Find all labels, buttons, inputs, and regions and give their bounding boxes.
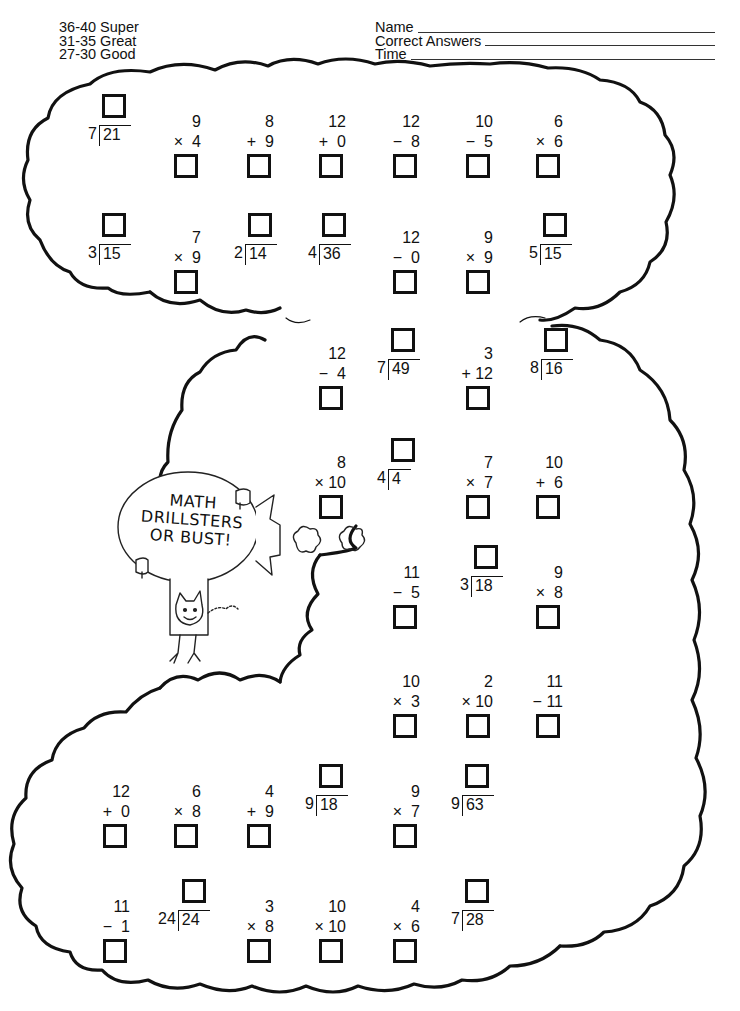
operator-and-bottom-operand: × 9 <box>447 248 507 268</box>
answer-box[interactable] <box>247 154 271 178</box>
answer-box[interactable] <box>248 213 272 237</box>
divisor: 3 <box>460 575 471 595</box>
problem-27-vertical: 2× 10 <box>447 672 507 738</box>
operator-and-bottom-operand: + 6 <box>517 473 577 493</box>
problem-40-division: 728 <box>451 879 494 931</box>
time-field[interactable]: Time <box>375 48 715 62</box>
correct-answers-input-line[interactable] <box>485 44 715 46</box>
operator-and-bottom-operand: − 4 <box>300 364 360 384</box>
answer-box[interactable] <box>319 939 343 963</box>
problem-2-vertical: 9× 4 <box>155 112 215 178</box>
answer-box[interactable] <box>536 154 560 178</box>
answer-box[interactable] <box>466 154 490 178</box>
dividend-under-division-bracket: 16 <box>541 359 573 380</box>
answer-box[interactable] <box>319 154 343 178</box>
problem-24-division: 318 <box>460 545 503 597</box>
problem-1-division: 721 <box>88 94 131 146</box>
problem-28-vertical: 11− 11 <box>517 672 577 738</box>
operator-and-bottom-operand: × 9 <box>155 248 215 268</box>
top-operand: 6 <box>155 782 215 802</box>
answer-box[interactable] <box>103 824 127 848</box>
middle-cloud-outline <box>160 337 265 480</box>
top-operand: 10 <box>447 112 507 132</box>
long-division-expression: 963 <box>451 794 494 816</box>
problem-4-vertical: 12+ 0 <box>300 112 360 178</box>
divisor: 9 <box>451 794 462 814</box>
answer-box[interactable] <box>322 213 346 237</box>
dividend-under-division-bracket: 14 <box>245 244 277 265</box>
score-tier-good: 27-30 Good <box>59 48 139 62</box>
answer-box[interactable] <box>393 605 417 629</box>
answer-box[interactable] <box>465 879 489 903</box>
answer-box[interactable] <box>536 495 560 519</box>
answer-box[interactable] <box>536 605 560 629</box>
answer-box[interactable] <box>174 270 198 294</box>
problem-14-division: 515 <box>529 213 572 265</box>
answer-box[interactable] <box>102 94 126 118</box>
correct-answers-field[interactable]: Correct Answers <box>375 35 715 49</box>
problem-12-vertical: 12− 0 <box>374 228 434 294</box>
time-input-line[interactable] <box>411 58 715 60</box>
answer-box[interactable] <box>393 270 417 294</box>
answer-box[interactable] <box>466 714 490 738</box>
long-division-expression: 515 <box>529 243 572 265</box>
answer-box[interactable] <box>247 939 271 963</box>
answer-box[interactable] <box>393 824 417 848</box>
answer-box[interactable] <box>174 824 198 848</box>
dividend-under-division-bracket: 4 <box>388 469 411 490</box>
problem-25-vertical: 9× 8 <box>517 563 577 629</box>
divisor: 3 <box>88 243 99 263</box>
long-division-expression: 315 <box>88 243 131 265</box>
divisor: 4 <box>308 243 319 263</box>
problem-33-vertical: 9× 7 <box>374 782 434 848</box>
problem-6-vertical: 10− 5 <box>447 112 507 178</box>
operator-and-bottom-operand: − 11 <box>517 692 577 712</box>
answer-box[interactable] <box>319 764 343 788</box>
dividend-under-division-bracket: 18 <box>316 795 348 816</box>
answer-box[interactable] <box>393 939 417 963</box>
top-operand: 9 <box>155 112 215 132</box>
answer-box[interactable] <box>182 879 206 903</box>
answer-box[interactable] <box>466 386 490 410</box>
answer-box[interactable] <box>174 154 198 178</box>
operator-and-bottom-operand: × 10 <box>447 692 507 712</box>
operator-and-bottom-operand: + 0 <box>300 132 360 152</box>
answer-box[interactable] <box>319 495 343 519</box>
answer-box[interactable] <box>247 824 271 848</box>
top-operand: 4 <box>374 897 434 917</box>
top-operand: 10 <box>517 453 577 473</box>
problem-5-vertical: 12− 8 <box>374 112 434 178</box>
top-operand: 8 <box>300 453 360 473</box>
answer-box[interactable] <box>466 495 490 519</box>
top-operand: 12 <box>300 344 360 364</box>
answer-box[interactable] <box>466 270 490 294</box>
operator-and-bottom-operand: + 9 <box>228 132 288 152</box>
answer-box[interactable] <box>393 714 417 738</box>
problem-11-division: 436 <box>308 213 351 265</box>
answer-box[interactable] <box>536 714 560 738</box>
dividend-under-division-bracket: 15 <box>99 244 131 265</box>
answer-box[interactable] <box>544 328 568 352</box>
answer-box[interactable] <box>102 213 126 237</box>
answer-box[interactable] <box>393 154 417 178</box>
operator-and-bottom-operand: × 8 <box>228 917 288 937</box>
top-operand: 9 <box>447 228 507 248</box>
answer-box[interactable] <box>391 328 415 352</box>
dividend-under-division-bracket: 28 <box>462 910 494 931</box>
answer-box[interactable] <box>319 386 343 410</box>
divisor: 4 <box>377 468 388 488</box>
top-operand: 7 <box>155 228 215 248</box>
divisor: 9 <box>305 794 316 814</box>
problem-10-division: 214 <box>234 213 277 265</box>
answer-box[interactable] <box>465 764 489 788</box>
answer-box[interactable] <box>103 939 127 963</box>
answer-box[interactable] <box>391 438 415 462</box>
top-operand: 2 <box>447 672 507 692</box>
long-division-expression: 721 <box>88 124 131 146</box>
dividend-under-division-bracket: 49 <box>388 359 420 380</box>
divisor: 8 <box>530 358 541 378</box>
balloon-slogan: MATH DRILLSTERS OR BUST! <box>120 488 263 552</box>
operator-and-bottom-operand: × 8 <box>517 583 577 603</box>
answer-box[interactable] <box>474 545 498 569</box>
answer-box[interactable] <box>543 213 567 237</box>
